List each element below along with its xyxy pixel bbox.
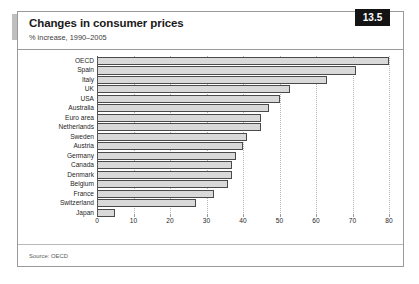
bar[interactable] [97, 76, 327, 84]
bar[interactable] [97, 142, 243, 150]
axis-tick-mark [389, 214, 390, 217]
axis-tick-label: 60 [312, 217, 319, 224]
bar[interactable] [97, 123, 261, 131]
axis-tick-mark [207, 214, 208, 217]
bar[interactable] [97, 66, 356, 74]
status-badge: 13.5 [355, 9, 390, 26]
axis-tick-label: 70 [349, 217, 356, 224]
axis-tick-mark [170, 214, 171, 217]
bar[interactable] [97, 85, 290, 93]
bar[interactable] [97, 190, 214, 198]
value-axis-line [97, 56, 98, 217]
bar[interactable] [97, 199, 196, 207]
chart-panel-root: Changes in consumer prices % increase, 1… [0, 0, 419, 284]
axis-tick-label: 80 [385, 217, 392, 224]
bar[interactable] [97, 104, 269, 112]
bar[interactable] [97, 133, 247, 141]
header-divider [18, 49, 403, 50]
axis-tick-label: 30 [203, 217, 210, 224]
axis-tick-mark [353, 214, 354, 217]
axis-tick-mark [243, 214, 244, 217]
bar[interactable] [97, 161, 232, 169]
bar[interactable] [97, 95, 280, 103]
bar[interactable] [97, 171, 232, 179]
axis-tick-mark [280, 214, 281, 217]
category-axis-labels: OECDSpainItalyUKUSAAustraliaEuro areaNet… [29, 56, 97, 217]
bar[interactable] [97, 209, 115, 217]
axis-tick-mark [134, 214, 135, 217]
category-label: Japan [31, 208, 97, 218]
axis-tick-label: 10 [130, 217, 137, 224]
axis-tick-label: 0 [95, 217, 99, 224]
axis-tick-label: 40 [239, 217, 246, 224]
bar-chart: OECDSpainItalyUKUSAAustraliaEuro areaNet… [29, 56, 394, 236]
panel-header: Changes in consumer prices % increase, 1… [18, 12, 403, 50]
axis-tick-mark [316, 214, 317, 217]
bar[interactable] [97, 152, 236, 160]
bar[interactable] [97, 57, 389, 65]
page-subtitle: % increase, 1990–2005 [29, 33, 107, 42]
gridline [389, 56, 390, 217]
page-title: Changes in consumer prices [29, 17, 184, 29]
value-axis-ticks: 01020304050607080 [97, 217, 389, 236]
plot-area [97, 56, 389, 217]
chart-panel: Changes in consumer prices % increase, 1… [17, 11, 404, 267]
bar[interactable] [97, 180, 228, 188]
axis-tick-label: 20 [166, 217, 173, 224]
axis-tick-label: 50 [276, 217, 283, 224]
source-note: Source: OECD [29, 253, 68, 259]
footer-divider [18, 244, 403, 245]
bar[interactable] [97, 114, 261, 122]
